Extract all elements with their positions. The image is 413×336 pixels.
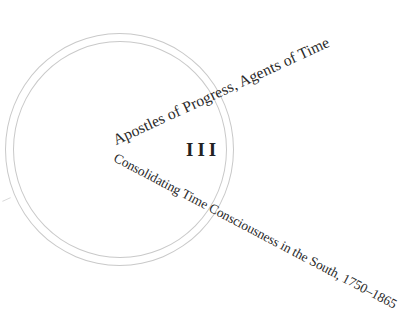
- part-number: III: [186, 140, 220, 159]
- stray-mark: [2, 197, 11, 202]
